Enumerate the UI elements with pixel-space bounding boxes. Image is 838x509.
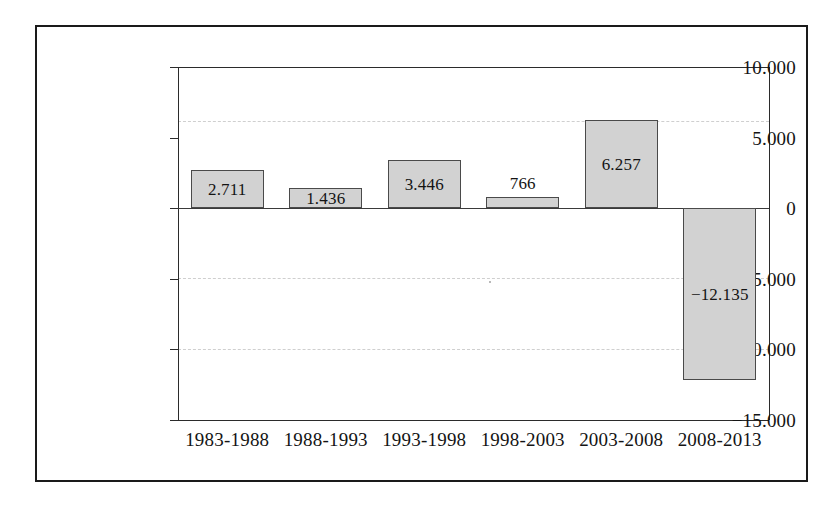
x-tick-label-1998-2003: 1998-2003 <box>474 429 573 451</box>
y-tick-label-5000: 5.000 <box>680 128 806 147</box>
x-tick-label-1993-1998: 1993-1998 <box>375 429 474 451</box>
bar-value-label: 6.257 <box>561 156 681 173</box>
gridline-5000 <box>178 121 769 122</box>
plot-right-border <box>769 67 770 420</box>
figure-frame: 10.000 5.000 0 −5.000 −10.000 −15.000 2.… <box>35 25 808 482</box>
bar-chart: 10.000 5.000 0 −5.000 −10.000 −15.000 2.… <box>37 27 806 480</box>
y-tick-mark-minus-5000 <box>170 279 178 280</box>
y-tick-mark-5000 <box>170 138 178 139</box>
x-tick-label-2008-2013: 2008-2013 <box>671 429 770 451</box>
y-axis-line <box>178 67 179 420</box>
y-tick-mark-10000 <box>170 67 178 68</box>
bar-value-label: −12.135 <box>660 286 780 303</box>
y-tick-label-minus-15000: −15.000 <box>680 411 806 430</box>
x-tick-label-1983-1988: 1983-1988 <box>178 429 277 451</box>
bar-1998-2003[interactable] <box>486 197 559 208</box>
y-tick-label-10000: 10.000 <box>680 58 806 77</box>
bar-value-label: 766 <box>463 175 583 192</box>
x-tick-label-1988-1993: 1988-1993 <box>277 429 376 451</box>
print-speck <box>489 281 491 283</box>
x-tick-label-2003-2008: 2003-2008 <box>572 429 671 451</box>
y-tick-mark-0 <box>170 208 178 209</box>
y-tick-mark-minus-15000 <box>170 420 178 421</box>
y-tick-mark-minus-10000 <box>170 349 178 350</box>
